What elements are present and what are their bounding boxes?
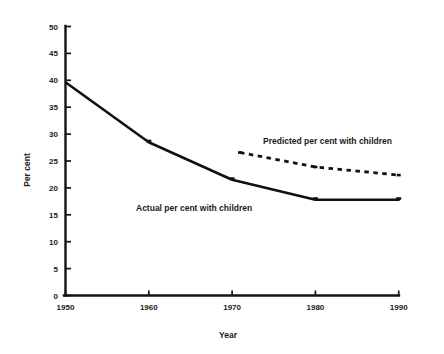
x-tick-label-1970: 1970: [223, 303, 241, 312]
y-tick-label-20: 20: [49, 184, 58, 193]
predicted-series-label: Predicted per cent with children: [263, 136, 392, 146]
data-point-1970-predicted: [238, 151, 242, 154]
y-tick-label-25: 25: [49, 157, 58, 166]
series-predicted-line: [240, 153, 399, 176]
y-tick-label-0: 0: [54, 292, 59, 301]
line-chart: 0 5 10 15 20 25 30 35 40 45 50 1950 1960…: [0, 0, 444, 354]
x-tick-label-1990: 1990: [390, 303, 408, 312]
y-tick-label-35: 35: [49, 103, 58, 112]
data-point-1980-predicted: [313, 166, 317, 169]
y-axis-title: Per cent: [22, 153, 32, 187]
y-tick-label-10: 10: [49, 238, 58, 247]
x-axis-title: Year: [219, 330, 238, 340]
series-predicted-group: [238, 151, 401, 176]
y-tick-marks: [66, 27, 71, 296]
axes-group: [64, 26, 399, 296]
data-point-1960-actual: [146, 140, 151, 143]
y-tick-label-5: 5: [54, 265, 59, 274]
data-point-1980-actual: [313, 197, 318, 200]
y-tick-label-15: 15: [49, 211, 58, 220]
y-tick-label-45: 45: [49, 49, 58, 58]
chart-canvas: 0 5 10 15 20 25 30 35 40 45 50 1950 1960…: [0, 0, 444, 354]
x-tick-label-1950: 1950: [57, 303, 75, 312]
data-point-1990-predicted: [397, 174, 401, 177]
y-tick-labels: 0 5 10 15 20 25 30 35 40 45 50: [49, 23, 58, 301]
y-tick-label-40: 40: [49, 76, 58, 85]
data-point-1970-actual: [230, 177, 235, 180]
actual-series-label: Actual per cent with children: [136, 203, 252, 213]
y-tick-label-50: 50: [49, 23, 58, 32]
x-tick-labels: 1950 1960 1970 1980 1990: [57, 303, 409, 312]
x-tick-label-1980: 1980: [307, 303, 325, 312]
data-point-1990-actual: [396, 197, 401, 200]
y-tick-label-30: 30: [49, 130, 58, 139]
x-tick-label-1960: 1960: [140, 303, 158, 312]
